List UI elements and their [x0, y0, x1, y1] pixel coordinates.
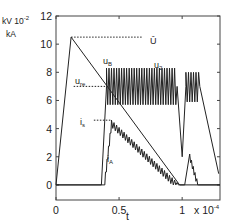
x-tick-label: 0 [53, 204, 59, 216]
y-tick-label: 10 [40, 38, 52, 50]
x-axis-multiplier: x 10-4 [194, 204, 220, 216]
x-tick-label: 1 [179, 204, 185, 216]
chart: 02468101200.51 kV 10-2 kA t x 10-4 Û uB … [0, 0, 231, 223]
series-i-a [56, 120, 220, 185]
y-tick-label: 4 [46, 123, 52, 135]
y-tick-label: 8 [46, 66, 52, 78]
x-tick-label: 0.5 [112, 204, 127, 216]
series-u-b [56, 37, 220, 185]
annotation-i-s: is [80, 117, 85, 128]
y-tick-label: 0 [46, 179, 52, 191]
annotation-u-re: ure [75, 76, 86, 87]
data-series [56, 37, 220, 185]
annotation-u-2: u2 [154, 60, 163, 71]
y-tick-label: 6 [46, 94, 52, 106]
y-tick-label: 2 [46, 151, 52, 163]
y-tick-label: 12 [40, 10, 52, 22]
annotation-u-b: uB [103, 56, 112, 67]
y-axis-unit: kV 10-2 [2, 15, 30, 26]
x-axis-label: t [126, 210, 129, 222]
annotation-u-hat: Û [150, 36, 157, 46]
y-axis-unit-secondary: kA [6, 29, 16, 39]
annotation-i-a: iA [107, 154, 113, 165]
